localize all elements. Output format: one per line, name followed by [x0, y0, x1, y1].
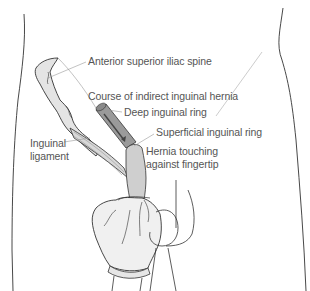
label-inguinal-ligament-line1: Inguinal	[30, 137, 66, 149]
gloved-hand	[92, 198, 161, 271]
torso-right-outline	[279, 8, 306, 291]
label-anterior-superior-iliac-spine: Anterior superior iliac spine	[88, 55, 212, 67]
label-hernia-touching-line1: Hernia touching	[146, 145, 218, 157]
label-superficial-inguinal-ring: Superficial inguinal ring	[156, 126, 262, 138]
examining-finger	[126, 144, 146, 200]
label-inguinal-ligament-line2: ligament	[30, 150, 69, 162]
label-hernia-touching-line2: against fingertip	[146, 158, 218, 170]
torso-left-outline	[12, 14, 25, 291]
label-deep-inguinal-ring: Deep inguinal ring	[124, 106, 207, 118]
leader-midline	[216, 52, 262, 116]
inguinal-hernia-diagram: Anterior superior iliac spine Course of …	[0, 0, 310, 291]
label-course-of-hernia: Course of indirect inguinal hernia	[88, 90, 238, 102]
